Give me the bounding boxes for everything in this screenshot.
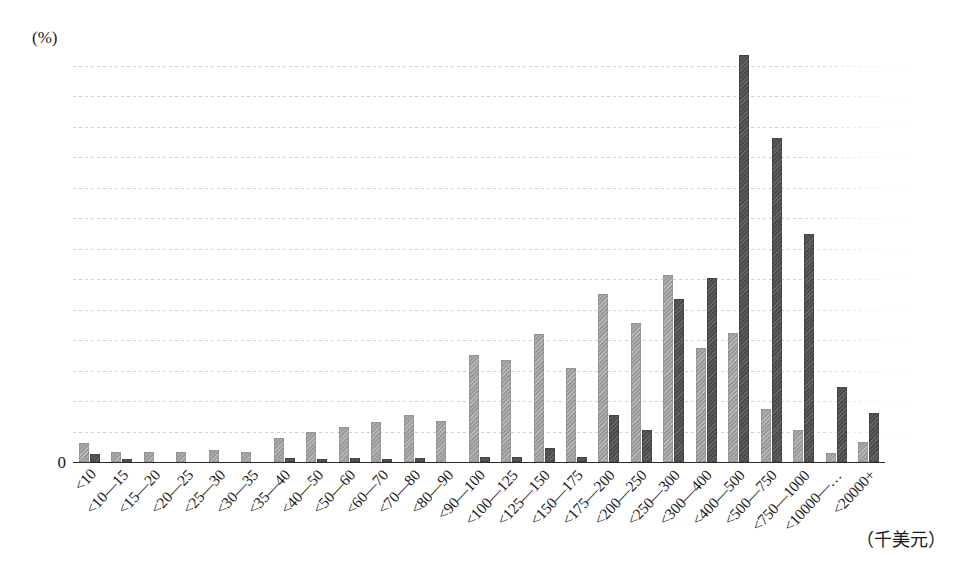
bar-series-dark [545, 448, 555, 462]
bar-series-light [371, 422, 381, 462]
y-tick-label: 10 [49, 301, 66, 318]
bar-series-light [241, 452, 251, 462]
bar-group [170, 66, 202, 462]
bar-chart: (%) 26242220181614121086420 <10<10—15<15… [0, 0, 968, 571]
bar-group [73, 66, 105, 462]
bar-series-light [144, 452, 154, 462]
bar-series-dark [317, 459, 327, 462]
bar-series-light [209, 450, 219, 462]
x-axis-unit-label: （千美元） [856, 525, 946, 551]
bar-group [495, 66, 527, 462]
bar-series-dark [609, 415, 619, 462]
x-tick-slot: <10 [73, 464, 105, 564]
bar-series-light [728, 333, 738, 462]
bar-series-light [858, 442, 868, 462]
plot-area: 26242220181614121086420 [73, 66, 928, 462]
x-tick-slot: <15—20 [138, 464, 170, 564]
bar-series-dark [382, 459, 392, 462]
bar-series-dark [642, 430, 652, 462]
bar-group [105, 66, 137, 462]
x-axis-labels: <10<10—15<15—20<20—25<25—30<30—35<35—40<… [73, 464, 885, 564]
x-tick-slot: <60—70 [365, 464, 397, 564]
bar-group [853, 66, 885, 462]
bar-series-light [469, 355, 479, 462]
bar-group [593, 66, 625, 462]
y-tick-label: 16 [49, 210, 66, 227]
bar-series-light [598, 294, 608, 462]
bar-series-dark [90, 454, 100, 462]
bar-series-light [306, 432, 316, 462]
bar-group [658, 66, 690, 462]
bar-series-dark [512, 457, 522, 462]
bar-series-light [793, 430, 803, 462]
x-tick-label: <10 [72, 466, 99, 494]
bar-group [203, 66, 235, 462]
x-tick-slot: <20—25 [170, 464, 202, 564]
y-axis-unit-label: (%) [32, 28, 57, 48]
x-tick-slot: <70—80 [398, 464, 430, 564]
bar-series-light [663, 275, 673, 462]
x-tick-slot: <30—35 [235, 464, 267, 564]
x-tick-slot: <35—40 [268, 464, 300, 564]
bar-series-dark [480, 457, 490, 462]
bar-series-dark [772, 138, 782, 462]
bar-series-light [274, 438, 284, 462]
bar-series-light [339, 427, 349, 462]
y-tick-label: 4 [58, 393, 67, 410]
bar-group [820, 66, 852, 462]
bar-series-dark [577, 457, 587, 462]
bar-group [625, 66, 657, 462]
x-tick-slot: <10—15 [105, 464, 137, 564]
bar-series-dark [707, 278, 717, 462]
bar-series-light [534, 334, 544, 462]
bar-group [398, 66, 430, 462]
bar-series-dark [122, 459, 132, 462]
y-tick-label: 0 [58, 454, 67, 471]
y-tick-label: 14 [49, 240, 66, 257]
bar-series-light [696, 348, 706, 462]
bar-group [690, 66, 722, 462]
bar-group [235, 66, 267, 462]
bar-series-dark [869, 413, 879, 463]
bar-group [430, 66, 462, 462]
y-tick-label: 12 [49, 271, 66, 288]
bar-group [723, 66, 755, 462]
bar-group [268, 66, 300, 462]
x-tick-slot: <50—60 [333, 464, 365, 564]
bar-series-light [566, 368, 576, 462]
bar-series-light [436, 421, 446, 462]
x-tick-slot: <25—30 [203, 464, 235, 564]
bar-group [365, 66, 397, 462]
bar-group [463, 66, 495, 462]
bar-series-light [404, 415, 414, 462]
bar-series-dark [285, 458, 295, 462]
bar-series-light [111, 452, 121, 462]
bar-series-dark [739, 55, 749, 462]
y-tick-label: 6 [58, 362, 67, 379]
bar-group [528, 66, 560, 462]
y-tick-label: 8 [58, 332, 67, 349]
bar-series-dark [350, 458, 360, 462]
bar-group [300, 66, 332, 462]
bar-group [138, 66, 170, 462]
bar-series-dark [415, 458, 425, 462]
y-tick-label: 24 [49, 88, 66, 105]
bar-group [755, 66, 787, 462]
bar-series-light [501, 360, 511, 462]
x-tick-slot: <40—50 [300, 464, 332, 564]
bar-series-dark [804, 234, 814, 462]
bars-layer [73, 66, 885, 462]
y-tick-label: 18 [49, 179, 66, 196]
bar-series-light [761, 409, 771, 462]
y-tick-label: 22 [49, 118, 66, 135]
bar-group [560, 66, 592, 462]
bar-group [788, 66, 820, 462]
y-tick-label: 20 [49, 149, 66, 166]
bar-series-light [826, 453, 836, 462]
bar-series-dark [837, 387, 847, 462]
bar-series-light [79, 443, 89, 462]
bar-group [333, 66, 365, 462]
bar-series-light [176, 452, 186, 462]
bar-series-dark [674, 299, 684, 462]
y-tick-label: 26 [49, 58, 66, 75]
